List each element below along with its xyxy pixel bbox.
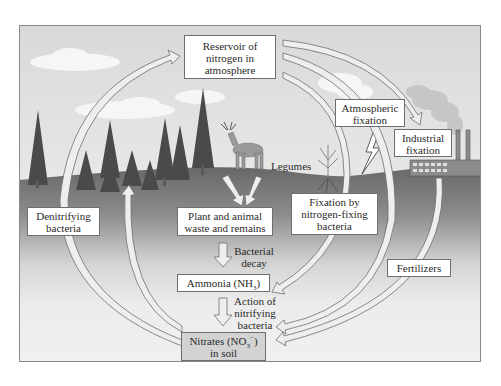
reservoir-line-2: nitrogen in bbox=[188, 52, 272, 64]
plant-animal-line-1: Plant and animal bbox=[181, 210, 269, 222]
box-plant-animal-waste: Plant and animal waste and remains bbox=[177, 207, 273, 236]
nitrates-line-1: Nitrates (NO3−) bbox=[185, 335, 262, 347]
atmospheric-line-1: Atmospheric bbox=[339, 102, 401, 114]
nitrates-subscript: 3 bbox=[247, 342, 251, 350]
fixation-line-3: bacteria bbox=[295, 220, 374, 232]
denitrifying-line-2: bacteria bbox=[31, 222, 96, 234]
nitrates-line-2: in soil bbox=[185, 347, 262, 359]
nitrifying-line-3: bacteria bbox=[230, 319, 280, 331]
box-fertilizers: Fertilizers bbox=[387, 259, 451, 277]
denitrifying-line-1: Denitrifying bbox=[31, 210, 96, 222]
nitrifying-line-2: nitrifying bbox=[230, 307, 280, 319]
nitrates-text: Nitrates (NO bbox=[189, 335, 246, 347]
bacterial-decay-line-1: Bacterial bbox=[233, 245, 275, 257]
label-bacterial-decay: Bacterial decay bbox=[233, 245, 275, 269]
box-fixation-bacteria: Fixation by nitrogen-fixing bacteria bbox=[291, 193, 378, 235]
box-reservoir: Reservoir of nitrogen in atmosphere bbox=[184, 35, 276, 79]
box-nitrates: Nitrates (NO3−) in soil bbox=[181, 332, 266, 361]
box-denitrifying-bacteria: Denitrifying bacteria bbox=[27, 207, 100, 236]
box-ammonia: Ammonia (NH3) bbox=[177, 274, 270, 292]
reservoir-line-3: atmosphere bbox=[188, 64, 272, 76]
fixation-line-1: Fixation by bbox=[295, 196, 374, 208]
industrial-line-1: Industrial bbox=[398, 132, 448, 144]
reservoir-line-1: Reservoir of bbox=[188, 40, 272, 52]
bacterial-decay-line-2: decay bbox=[233, 257, 275, 269]
box-atmospheric-fixation: Atmospheric fixation bbox=[335, 99, 405, 127]
fertilizers-text: Fertilizers bbox=[397, 262, 442, 274]
ammonia-close: ) bbox=[257, 277, 261, 289]
ammonia-text: Ammonia (NH bbox=[187, 277, 253, 289]
nitrates-close: ) bbox=[254, 335, 258, 347]
nitrifying-line-1: Action of bbox=[230, 295, 280, 307]
industrial-line-2: fixation bbox=[398, 144, 448, 156]
box-industrial-fixation: Industrial fixation bbox=[394, 129, 452, 157]
plant-animal-line-2: waste and remains bbox=[181, 222, 269, 234]
fixation-line-2: nitrogen-fixing bbox=[295, 208, 374, 220]
label-legumes: Legumes bbox=[271, 160, 311, 172]
label-nitrifying-bacteria: Action of nitrifying bacteria bbox=[230, 295, 280, 331]
atmospheric-line-2: fixation bbox=[339, 114, 401, 126]
